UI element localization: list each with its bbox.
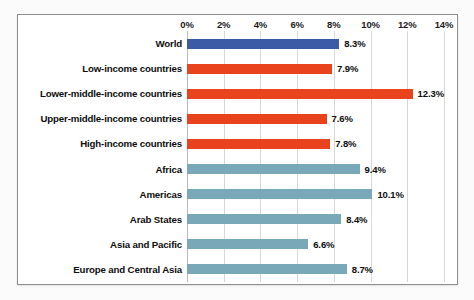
bar-row[interactable]: High-income countries7.8% <box>18 131 459 156</box>
bar[interactable] <box>187 39 339 49</box>
x-axis-tick-label: 8% <box>327 19 341 30</box>
bar[interactable] <box>187 64 332 74</box>
bar-value-label: 7.6% <box>332 113 353 124</box>
bar-row[interactable]: Asia and Pacific6.6% <box>18 232 459 257</box>
x-axis-tick-label: 4% <box>254 19 268 30</box>
bar[interactable] <box>187 114 327 124</box>
x-axis-tick-label: 0% <box>180 19 194 30</box>
bar-track: 10.1% <box>187 182 444 207</box>
bar-value-label: 10.1% <box>377 189 403 200</box>
bar-row[interactable]: Arab States8.4% <box>18 207 459 232</box>
category-label: Low-income countries <box>22 63 182 74</box>
bar-row[interactable]: Low-income countries7.9% <box>18 56 459 81</box>
bar-value-label: 9.4% <box>365 164 386 175</box>
category-label: World <box>22 38 182 49</box>
bar-value-label: 6.6% <box>313 239 334 250</box>
bar-track: 8.7% <box>187 257 444 282</box>
category-label: Europe and Central Asia <box>22 264 182 275</box>
x-axis-tick-label: 10% <box>361 19 380 30</box>
chart-frame: 0%2%4%6%8%10%12%14% World8.3%Low-income … <box>17 14 458 285</box>
bar-track: 7.8% <box>187 131 444 156</box>
bar-value-label: 7.9% <box>337 63 358 74</box>
bar[interactable] <box>187 139 330 149</box>
bar[interactable] <box>187 239 308 249</box>
category-label: Lower-middle-income countries <box>22 88 182 99</box>
bar[interactable] <box>187 214 341 224</box>
bar-row[interactable]: World8.3% <box>18 31 459 56</box>
bar[interactable] <box>187 264 347 274</box>
bar-value-label: 8.7% <box>352 264 373 275</box>
category-label: Americas <box>22 189 182 200</box>
x-axis-tick-label: 6% <box>290 19 304 30</box>
bar-track: 6.6% <box>187 232 444 257</box>
bar-row[interactable]: Upper-middle-income countries7.6% <box>18 106 459 131</box>
bar-track: 12.3% <box>187 81 444 106</box>
bar[interactable] <box>187 189 372 199</box>
bar[interactable] <box>187 89 413 99</box>
bar-track: 8.4% <box>187 207 444 232</box>
bar-value-label: 8.4% <box>346 214 367 225</box>
category-label: Arab States <box>22 214 182 225</box>
bar-row[interactable]: Americas10.1% <box>18 182 459 207</box>
x-axis-tick-label: 12% <box>398 19 417 30</box>
bar-rows: World8.3%Low-income countries7.9%Lower-m… <box>18 31 459 282</box>
bar-value-label: 12.3% <box>418 88 444 99</box>
bar-track: 7.9% <box>187 56 444 81</box>
bar-row[interactable]: Africa9.4% <box>18 157 459 182</box>
bar-row[interactable]: Lower-middle-income countries12.3% <box>18 81 459 106</box>
category-label: Asia and Pacific <box>22 239 182 250</box>
bar-value-label: 7.8% <box>335 138 356 149</box>
bar-track: 7.6% <box>187 106 444 131</box>
category-label: Africa <box>22 164 182 175</box>
x-axis-tick-label: 14% <box>435 19 454 30</box>
category-label: Upper-middle-income countries <box>22 113 182 124</box>
bar-track: 9.4% <box>187 157 444 182</box>
bar-row[interactable]: Europe and Central Asia8.7% <box>18 257 459 282</box>
bar[interactable] <box>187 164 360 174</box>
bar-value-label: 8.3% <box>344 38 365 49</box>
bar-track: 8.3% <box>187 31 444 56</box>
x-axis-tick-label: 2% <box>217 19 231 30</box>
category-label: High-income countries <box>22 138 182 149</box>
